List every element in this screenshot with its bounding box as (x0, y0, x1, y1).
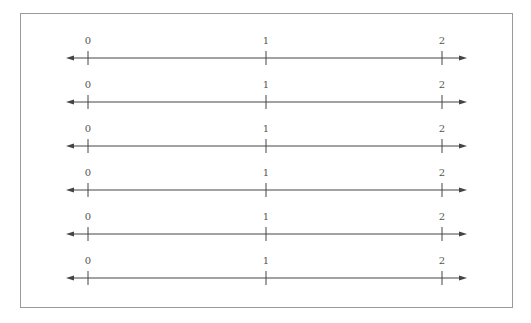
number-line: 012 (0, 170, 531, 210)
left-arrow-icon (66, 232, 74, 237)
left-arrow-icon (66, 188, 74, 193)
right-arrow-icon (459, 232, 467, 237)
number-line: 012 (0, 82, 531, 122)
left-arrow-icon (66, 100, 74, 105)
number-line-axis (0, 170, 531, 210)
number-line-axis (0, 214, 531, 254)
right-arrow-icon (459, 276, 467, 281)
right-arrow-icon (459, 56, 467, 61)
number-line-axis (0, 258, 531, 298)
number-line-axis (0, 82, 531, 122)
right-arrow-icon (459, 188, 467, 193)
left-arrow-icon (66, 276, 74, 281)
right-arrow-icon (459, 144, 467, 149)
number-line-axis (0, 38, 531, 78)
left-arrow-icon (66, 144, 74, 149)
number-line: 012 (0, 214, 531, 254)
number-line: 012 (0, 38, 531, 78)
number-line: 012 (0, 126, 531, 166)
right-arrow-icon (459, 100, 467, 105)
number-line: 012 (0, 258, 531, 298)
number-line-axis (0, 126, 531, 166)
left-arrow-icon (66, 56, 74, 61)
